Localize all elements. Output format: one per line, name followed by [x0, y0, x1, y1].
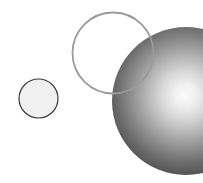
scene-svg: [0, 0, 203, 183]
small-circle: [19, 79, 58, 118]
illustration-canvas: [0, 0, 203, 183]
